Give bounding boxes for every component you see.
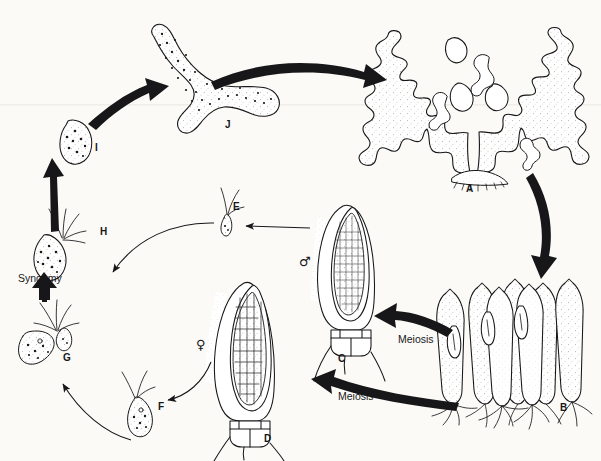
process-label-meiosis-upper: Meiosis bbox=[398, 334, 434, 345]
stage-a-thallus bbox=[359, 28, 589, 192]
stage-label-c: C bbox=[338, 354, 345, 364]
stage-d-female-sporangium bbox=[205, 282, 284, 461]
stage-label-j: J bbox=[225, 120, 231, 130]
arrow-i-to-j bbox=[88, 78, 169, 130]
arrow-d-to-f bbox=[168, 362, 211, 400]
arrow-c-to-e bbox=[246, 226, 310, 228]
process-label-meiosis-lower: Meiosis bbox=[338, 391, 374, 402]
arrow-f-to-g bbox=[63, 384, 131, 440]
male-symbol-icon: ♂ bbox=[299, 255, 311, 268]
arrow-j-to-a bbox=[211, 63, 387, 90]
stage-label-d: D bbox=[264, 434, 271, 444]
stage-label-i: I bbox=[95, 143, 98, 153]
stage-h-zygote bbox=[34, 209, 86, 280]
stage-i-settled-zygote bbox=[60, 120, 92, 164]
stage-j-sporeling bbox=[152, 24, 280, 133]
stage-c-male-sporangium bbox=[311, 205, 385, 381]
arrow-e-to-g bbox=[113, 223, 214, 272]
life-cycle-diagram: A B C D E F G H I J Meiosis Meiosis Syng… bbox=[0, 0, 601, 461]
arrow-h-to-i bbox=[43, 158, 64, 232]
stage-f-female-gamete bbox=[122, 371, 155, 437]
stage-label-a: A bbox=[466, 184, 473, 194]
stage-e-male-gamete bbox=[221, 188, 244, 236]
arrow-a-to-b bbox=[526, 173, 557, 279]
diagram-artwork bbox=[0, 0, 601, 461]
stage-label-f: F bbox=[158, 402, 164, 412]
arrow-b-to-d bbox=[311, 369, 459, 411]
syngamy-tick bbox=[42, 292, 47, 302]
stage-label-h: H bbox=[100, 227, 107, 237]
female-symbol-icon: ♀ bbox=[196, 338, 206, 351]
process-label-syngamy: Syngamy bbox=[18, 273, 62, 284]
stage-label-g: G bbox=[63, 353, 71, 363]
stage-label-e: E bbox=[233, 202, 240, 212]
stage-label-b: B bbox=[560, 403, 567, 413]
